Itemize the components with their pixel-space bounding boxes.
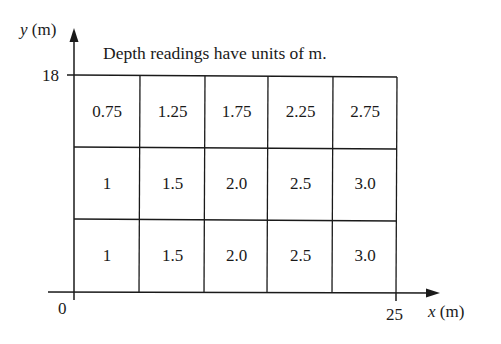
x-axis-var: x (428, 302, 436, 321)
grid-cell: 2.75 (333, 76, 397, 148)
grid-cell: 2.5 (268, 148, 333, 220)
grid-cell: 1.25 (140, 76, 205, 148)
grid-cell: 0.75 (74, 76, 140, 148)
y-axis-label: y (m) (20, 20, 56, 40)
x-axis-label: x (m) (428, 302, 464, 322)
grid-cell: 2.25 (268, 76, 333, 148)
grid-cell: 2.0 (205, 148, 268, 220)
grid-cell: 1.5 (140, 148, 205, 220)
y-axis-var: y (20, 20, 28, 39)
grid-cell: 1 (74, 220, 140, 292)
y-tick-label-18: 18 (42, 66, 59, 86)
x-axis-unit: (m) (436, 302, 465, 321)
diagram-title: Depth readings have units of m. (103, 43, 327, 64)
grid-cell: 1.75 (205, 76, 268, 148)
y-axis-unit: (m) (28, 20, 57, 39)
x-axis (48, 292, 432, 293)
grid-cell: 2.0 (205, 220, 268, 292)
x-tick-label-25: 25 (386, 305, 403, 325)
grid-cell: 3.0 (333, 148, 397, 220)
y-axis-arrow-icon (70, 28, 79, 42)
grid-cell: 1.5 (140, 220, 205, 292)
grid-cell: 1 (74, 148, 140, 220)
origin-label: 0 (58, 299, 67, 319)
x-axis-arrow-icon (426, 289, 440, 298)
grid-cell: 3.0 (333, 220, 397, 292)
grid-cell: 2.5 (268, 220, 333, 292)
